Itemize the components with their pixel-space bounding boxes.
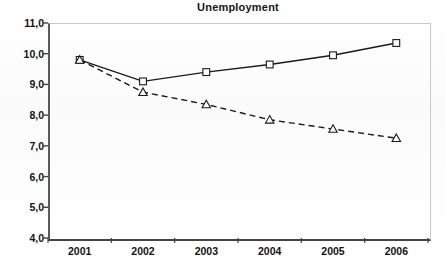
x-tick-label: 2006 — [366, 245, 426, 257]
data-point-series-dashed-triangle-2004 — [266, 116, 274, 124]
x-axis-ticks — [48, 238, 428, 243]
chart-canvas — [0, 0, 445, 268]
x-tick-label: 2003 — [176, 245, 236, 257]
chart-page: Unemployment 11,010,09,08,07,06,05,04,0 … — [0, 0, 445, 268]
series-layer — [76, 40, 401, 142]
x-tick-label: 2001 — [50, 245, 110, 257]
data-point-series-solid-square-2004 — [266, 61, 273, 68]
data-point-series-solid-square-2002 — [140, 78, 147, 85]
data-point-series-solid-square-2006 — [393, 40, 400, 47]
x-tick-label: 2002 — [113, 245, 173, 257]
x-tick-label: 2005 — [303, 245, 363, 257]
x-tick-label: 2004 — [240, 245, 300, 257]
data-point-series-dashed-triangle-2002 — [139, 88, 147, 96]
series-line-series-solid-square — [80, 43, 397, 81]
series-line-series-dashed-triangle — [80, 60, 397, 138]
data-point-series-solid-square-2005 — [330, 52, 337, 59]
data-point-series-solid-square-2003 — [203, 69, 210, 76]
y-axis-ticks — [43, 23, 48, 238]
